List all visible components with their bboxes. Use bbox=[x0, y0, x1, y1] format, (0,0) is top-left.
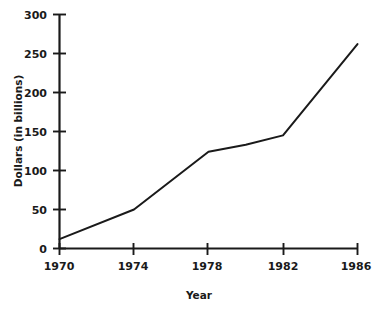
y-tick-label-300: 300 bbox=[24, 9, 47, 22]
x-tick-label-1974: 1974 bbox=[118, 260, 149, 273]
x-axis-title: Year bbox=[185, 289, 213, 301]
y-tick-label-100: 100 bbox=[24, 165, 47, 178]
y-tick-label-250: 250 bbox=[24, 48, 47, 61]
y-tick-label-150: 150 bbox=[24, 126, 47, 139]
chart-canvas: 300 250 200 150 100 50 0 1970 1974 1978 … bbox=[0, 0, 373, 311]
y-tick-label-200: 200 bbox=[24, 87, 47, 100]
x-tick-label-1986: 1986 bbox=[341, 260, 372, 273]
y-axis-title: Dollars (in billions) bbox=[12, 75, 24, 187]
line-chart: 300 250 200 150 100 50 0 1970 1974 1978 … bbox=[0, 0, 373, 311]
y-tick-label-0: 0 bbox=[39, 243, 47, 256]
x-tick-label-1982: 1982 bbox=[268, 260, 299, 273]
y-tick-label-50: 50 bbox=[32, 204, 48, 217]
x-tick-label-1970: 1970 bbox=[44, 260, 75, 273]
x-tick-label-1978: 1978 bbox=[192, 260, 223, 273]
